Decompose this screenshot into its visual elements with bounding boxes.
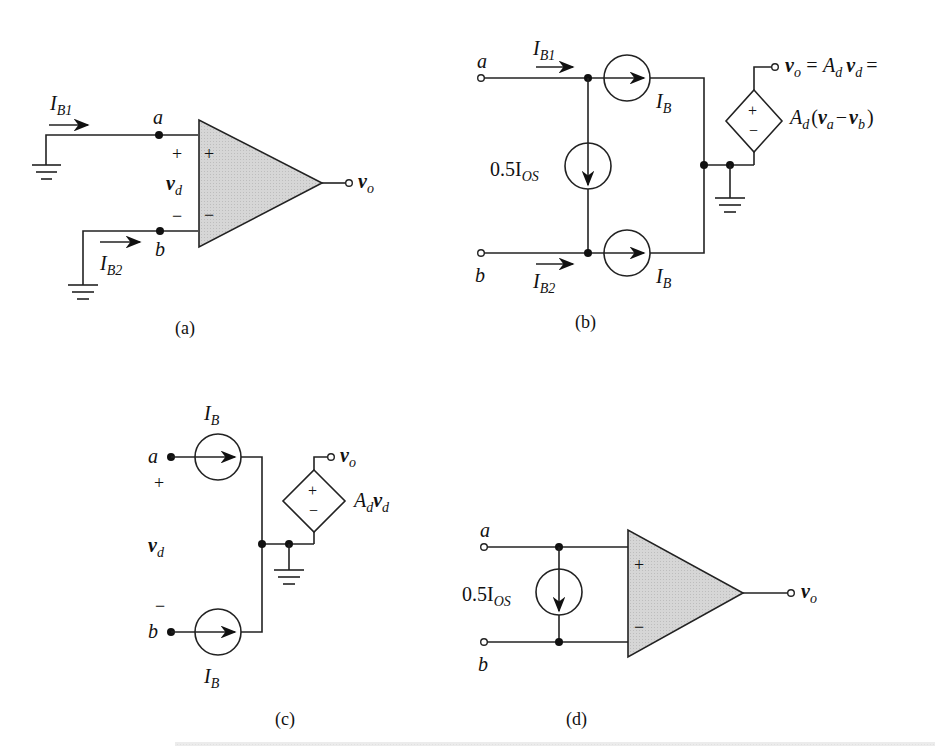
panel-a: IB1 a b IB2 + − vd + − vo (a) [32,92,374,339]
source-plus: + [308,482,317,499]
label-ib-top: IB [203,402,220,428]
label-ib-top: IB [655,90,672,116]
panel-d: a 0.5IOS b + − vo (d) [462,519,817,730]
opamp-plus-input: + [204,144,214,164]
ground-icon [32,165,61,179]
label-ib2: IB2 [99,252,122,278]
label-ib2: IB2 [532,270,555,296]
label-node-a: a [480,519,490,541]
label-ib1: IB1 [532,37,555,63]
output-terminal [788,590,795,597]
label-vd: vd [148,534,165,560]
label-node-b: b [155,238,165,260]
opamp-triangle [628,530,743,657]
node-dot [555,638,563,646]
label-node-b: b [478,653,488,675]
panel-b: a IB1 IB 0.5IOS b IB2 IB [475,37,877,333]
opamp-triangle [199,120,322,247]
caption-a: (a) [175,318,195,339]
label-vo: vo [340,444,356,470]
dependent-voltage-source [726,90,782,152]
label-minus: − [155,596,165,616]
ground-icon [274,570,304,584]
label-ib-bottom: IB [655,265,672,291]
source-plus: + [748,102,757,119]
label-node-a: a [477,50,487,72]
dependent-voltage-source [283,470,345,532]
label-plus: + [154,473,164,493]
equation-line1: vo= Advd= [785,54,877,80]
circuit-figure: IB1 a b IB2 + − vd + − vo (a) [0,0,950,746]
label-ios: 0.5IOS [490,158,539,184]
equation-line2: Ad(va−vb) [788,106,874,132]
caption-c: (c) [275,709,295,730]
opamp-plus-input: + [634,555,644,575]
label-plus: + [172,144,182,164]
label-vo: vo [801,580,817,606]
output-terminal [328,454,335,461]
terminal-b [478,250,485,257]
opamp-minus-input: − [634,617,644,637]
source-minus: − [749,122,758,139]
source-minus: − [309,502,318,519]
opamp-minus-input: − [204,205,214,225]
caption-d: (d) [566,709,587,730]
label-vo: vo [358,170,374,196]
terminal-a [481,544,488,551]
ground-icon [715,198,745,212]
ground-icon [68,285,98,299]
label-ib-bottom: IB [203,665,220,691]
cut-off-caption-text [175,742,935,746]
label-gain: Advd [352,489,390,515]
label-vd: vd [166,172,183,198]
label-node-b: b [475,264,485,286]
label-node-a: a [153,106,163,128]
output-terminal [772,64,779,71]
caption-b: (b) [575,312,596,333]
terminal-a [478,75,485,82]
label-node-b: b [148,620,158,642]
node-dot-a [155,131,163,139]
label-ib1: IB1 [49,92,72,118]
node-dot-b [156,227,164,235]
node-dot [584,249,592,257]
label-minus: − [172,206,182,226]
terminal-b [481,639,488,646]
output-terminal [346,180,353,187]
panel-c: IB a + vd − b IB + − vo Advd (c) [148,402,390,730]
label-node-a: a [148,445,158,467]
label-ios: 0.5IOS [462,583,511,609]
